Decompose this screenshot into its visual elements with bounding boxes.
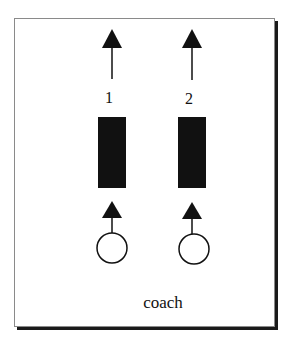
- start-arrow-icon: [102, 201, 122, 233]
- obstacle-block: [178, 117, 206, 188]
- player-marker-icon: [97, 233, 127, 263]
- forward-arrow-icon: [102, 29, 122, 79]
- start-arrow-icon: [182, 202, 202, 234]
- player-marker-icon: [179, 234, 209, 264]
- lane-2: 2: [178, 29, 209, 264]
- obstacle-block: [98, 117, 126, 188]
- drill-diagram: 1 2 coach: [0, 0, 294, 346]
- coach-label: coach: [143, 293, 183, 312]
- lane-1: 1: [97, 29, 127, 263]
- lane-number-label: 2: [185, 90, 193, 107]
- forward-arrow-icon: [182, 29, 202, 80]
- lane-number-label: 1: [105, 89, 113, 106]
